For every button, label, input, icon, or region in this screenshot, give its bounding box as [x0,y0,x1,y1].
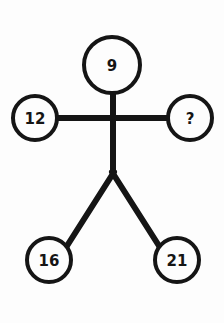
node-right-foot[interactable]: 21 [155,238,199,282]
stick-figure-diagram: 9 12 ? 16 21 [0,0,224,323]
node-head-label: 9 [107,57,117,75]
node-right-foot-label: 21 [167,252,188,270]
node-left-hand[interactable]: 12 [13,96,57,140]
node-head[interactable]: 9 [84,37,140,93]
node-left-foot-label: 16 [39,252,60,270]
edge-left-leg [65,172,114,249]
edge-right-leg [112,172,161,249]
edge-group [56,93,169,249]
diagram-canvas: 9 12 ? 16 21 [0,0,224,323]
node-right-hand[interactable]: ? [168,96,212,140]
node-left-hand-label: 12 [25,110,46,128]
node-left-foot[interactable]: 16 [27,238,71,282]
node-right-hand-label: ? [186,110,195,128]
